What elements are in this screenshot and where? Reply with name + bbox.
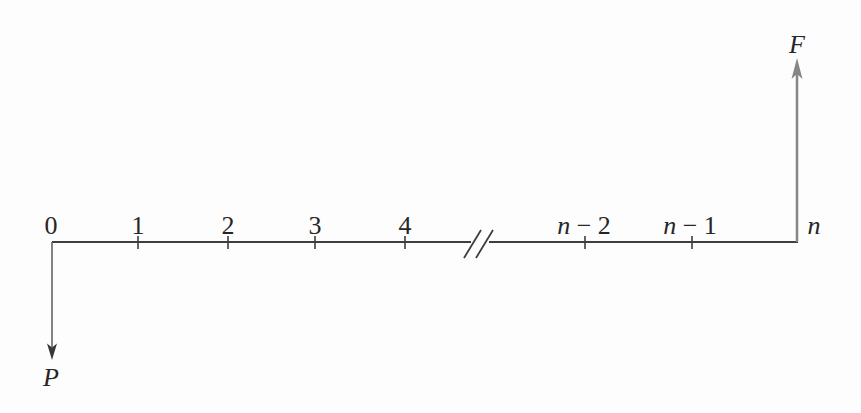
tick-label-2: 2: [222, 212, 235, 240]
tick-label-0-num: 0: [45, 211, 58, 240]
tick-label-n-minus-2-num: − 2: [570, 211, 611, 240]
tick-label-4-num: 4: [399, 211, 412, 240]
tick-label-n-minus-2-var: n: [557, 211, 570, 240]
tick-label-n-minus-1: n − 1: [663, 212, 717, 240]
tick-label-n-minus-2: n − 2: [557, 212, 611, 240]
tick-label-n-var: n: [808, 211, 821, 240]
tick-label-1-num: 1: [132, 211, 145, 240]
tick-label-3: 3: [309, 212, 322, 240]
tick-label-3-num: 3: [309, 211, 322, 240]
tick-label-n-minus-1-num: − 1: [676, 211, 717, 240]
tick-label-n: n: [808, 212, 821, 240]
future-value-label: F: [789, 31, 805, 59]
timeline-canvas: [0, 0, 861, 413]
cash-flow-diagram: 0 1 2 3 4 n − 2 n − 1 n P F: [0, 0, 861, 413]
tick-label-1: 1: [132, 212, 145, 240]
tick-label-4: 4: [399, 212, 412, 240]
axis-break-icon: [464, 230, 493, 258]
tick-label-2-num: 2: [222, 211, 235, 240]
tick-label-0: 0: [45, 212, 58, 240]
tick-label-n-minus-1-var: n: [663, 211, 676, 240]
present-value-label: P: [43, 364, 59, 392]
